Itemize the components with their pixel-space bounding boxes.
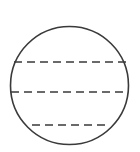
outer-circle (11, 27, 129, 145)
circle-diagram (0, 0, 140, 152)
